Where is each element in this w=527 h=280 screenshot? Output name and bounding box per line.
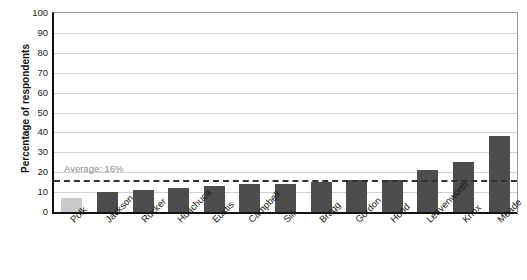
y-tick-label: 70: [18, 66, 48, 77]
y-axis-tick-labels: 0102030405060708090100: [18, 0, 48, 280]
x-label-slot: Gordon: [337, 213, 373, 280]
x-label-slot: Rucker: [123, 213, 159, 280]
x-label-slot: Hood: [372, 213, 408, 280]
x-label-slot: Leavenworth: [408, 213, 444, 280]
y-tick-label: 0: [18, 206, 48, 217]
y-tick-label: 80: [18, 46, 48, 57]
x-label-slot: Polk: [52, 213, 88, 280]
y-tick-label: 10: [18, 186, 48, 197]
x-axis-tick-labels: PolkJacksonRuckerHuachucaEustisCampbellS…: [52, 213, 515, 280]
x-label-slot: Knox: [444, 213, 480, 280]
average-line: [54, 180, 517, 182]
y-tick-label: 60: [18, 86, 48, 97]
x-label-slot: Jackson: [88, 213, 124, 280]
y-tick-label: 30: [18, 146, 48, 157]
y-tick-label: 100: [18, 7, 48, 18]
x-label-slot: Meade: [479, 213, 515, 280]
x-label-slot: Huachuca: [159, 213, 195, 280]
bar-meade[interactable]: [489, 136, 510, 212]
bar-chart: Percentage of respondents 01020304050607…: [0, 0, 527, 280]
plot-area: Average: 16%: [52, 12, 518, 214]
x-label-slot: Sill: [266, 213, 302, 280]
x-label-slot: Eustis: [194, 213, 230, 280]
x-label-slot: Bragg: [301, 213, 337, 280]
y-tick-label: 50: [18, 106, 48, 117]
y-tick-label: 90: [18, 26, 48, 37]
y-tick-label: 20: [18, 166, 48, 177]
y-tick-label: 40: [18, 126, 48, 137]
x-label-slot: Campbell: [230, 213, 266, 280]
average-line-label: Average: 16%: [64, 163, 124, 174]
